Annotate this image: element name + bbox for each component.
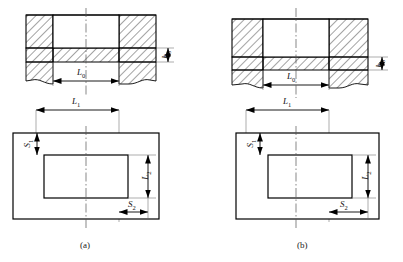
label-L1-b: L1 [283, 97, 291, 108]
label-S2-a: S2 [128, 200, 136, 211]
label-h0-a: h0 [161, 51, 172, 59]
label-L2-a: L2 [141, 172, 152, 180]
label-L0-b: L0 [287, 72, 295, 83]
label-h0-b: h0 [375, 60, 386, 68]
label-L0-a: L0 [77, 68, 85, 79]
panel-b-plan-inner [268, 155, 352, 198]
panel-a-right-block [119, 15, 156, 84]
panel-a-plan [13, 110, 159, 228]
panel-a-left-block [26, 15, 53, 84]
label-L2-b: L2 [361, 172, 372, 180]
caption-a: (a) [80, 240, 90, 250]
panel-b-right-block [329, 19, 368, 88]
drawing-canvas [0, 0, 403, 262]
label-S2-b: S2 [340, 200, 348, 211]
panel-b-elevation [232, 8, 388, 98]
panel-b-plan [236, 110, 379, 228]
caption-b: (b) [297, 240, 308, 250]
label-L1-a: L1 [72, 97, 80, 108]
panel-a-elevation [26, 8, 174, 95]
panel-b-left-block [232, 19, 263, 88]
label-S1-a: S1 [23, 140, 34, 148]
engineering-figure: L0 h0 L1 S1 L2 S2 (a) L0 h0 L1 S1 L2 S2 … [0, 0, 403, 262]
label-S1-b: S1 [246, 140, 257, 148]
